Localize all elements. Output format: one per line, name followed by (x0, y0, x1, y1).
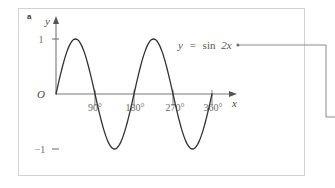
equation-equals: = (190, 39, 196, 51)
x-axis-label: x (231, 97, 237, 109)
equation-lhs: y (177, 39, 183, 51)
y-tick-label-1: 1 (39, 34, 44, 45)
x-tick-label-180: 180° (126, 102, 145, 113)
y-axis-arrowhead (53, 16, 59, 24)
y-axis-label: y (44, 15, 50, 27)
equation-argument: 2x (221, 39, 232, 51)
y-tick-label-minus1: −1 (35, 144, 46, 155)
graph-svg: y x O 1 −1 90° 180° 270° 360° y = sin 2x (0, 0, 335, 188)
annotation-leader-line (238, 45, 335, 117)
equation-annotation: y = sin 2x (177, 39, 232, 51)
x-tick-label-360: 360° (204, 102, 223, 113)
equation-function: sin (203, 39, 216, 51)
figure-stage: a y x O 1 −1 90° 180° 270° 360° (0, 0, 335, 188)
x-tick-label-90: 90° (88, 102, 102, 113)
origin-label: O (37, 88, 45, 100)
